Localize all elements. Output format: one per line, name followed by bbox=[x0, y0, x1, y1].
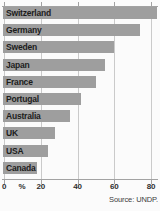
bar-australia: Australia bbox=[3, 110, 70, 122]
x-tick-label-40: 40 bbox=[73, 182, 82, 191]
bar-chart-plot-area: SwitzerlandGermanySwedenJapanFrancePortu… bbox=[0, 6, 160, 180]
bar-label-australia: Australia bbox=[3, 110, 41, 122]
x-axis-unit-label: % bbox=[19, 182, 26, 191]
bar-japan: Japan bbox=[3, 59, 105, 71]
bar-france: France bbox=[3, 76, 96, 88]
bar-label-france: France bbox=[3, 76, 33, 88]
bar-label-uk: UK bbox=[3, 127, 18, 139]
x-axis-labels: 020406080% bbox=[0, 182, 160, 192]
bar-label-sweden: Sweden bbox=[3, 41, 37, 53]
bar-label-canada: Canada bbox=[3, 162, 36, 174]
x-tick-label-20: 20 bbox=[37, 182, 46, 191]
bar-portugal: Portugal bbox=[3, 93, 81, 105]
bar-label-portugal: Portugal bbox=[3, 93, 39, 105]
x-tick-label-60: 60 bbox=[110, 182, 119, 191]
bar-uk: UK bbox=[3, 127, 55, 139]
source-label: Source: UNDP. bbox=[109, 195, 158, 204]
chart-screen: SwitzerlandGermanySwedenJapanFrancePortu… bbox=[0, 0, 160, 211]
bar-label-usa: USA bbox=[3, 145, 23, 157]
bar-sweden: Sweden bbox=[3, 41, 114, 53]
bar-canada: Canada bbox=[3, 162, 37, 174]
x-tick-label-80: 80 bbox=[147, 182, 156, 191]
bars-layer: SwitzerlandGermanySwedenJapanFrancePortu… bbox=[0, 6, 160, 180]
x-tick-label-0: 0 bbox=[2, 182, 6, 191]
bar-switzerland: Switzerland bbox=[3, 7, 157, 19]
bar-label-japan: Japan bbox=[3, 59, 30, 71]
bar-usa: USA bbox=[3, 145, 48, 157]
bar-germany: Germany bbox=[3, 24, 140, 36]
bar-label-germany: Germany bbox=[3, 24, 41, 36]
bar-label-switzerland: Switzerland bbox=[3, 7, 51, 19]
